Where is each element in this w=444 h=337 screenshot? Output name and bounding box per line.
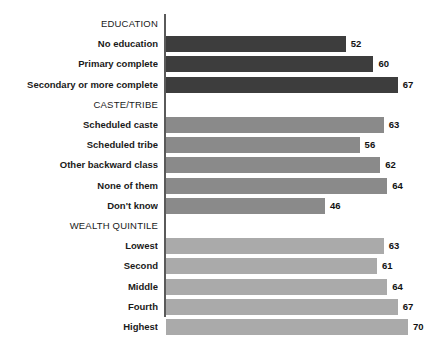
bar-row: Other backward class62 (0, 155, 444, 175)
bar (166, 77, 398, 93)
bar (166, 137, 360, 153)
bar-category-label: Highest (0, 317, 158, 337)
bar-category-label: Middle (0, 277, 158, 297)
bar-value-label: 64 (392, 279, 403, 295)
bar-value-label: 60 (378, 56, 389, 72)
bar-row: Don't know46 (0, 196, 444, 216)
bar-value-label: 67 (403, 299, 414, 315)
bar (166, 299, 398, 315)
bar-row: Primary complete60 (0, 54, 444, 74)
bar-category-label: No education (0, 34, 158, 54)
group-header-label: EDUCATION (0, 14, 158, 34)
bar-row: Scheduled tribe56 (0, 135, 444, 155)
bar-value-label: 61 (382, 258, 393, 274)
group-header-label: CASTE/TRIBE (0, 95, 158, 115)
bar (166, 117, 384, 133)
group-header-row: WEALTH QUINTILE (0, 216, 444, 236)
bar (166, 157, 380, 173)
bar-row: Second61 (0, 256, 444, 276)
bar-value-label: 52 (351, 36, 362, 52)
bar-row: Fourth67 (0, 297, 444, 317)
bar (166, 178, 387, 194)
bar-category-label: Lowest (0, 236, 158, 256)
bar-row: Lowest63 (0, 236, 444, 256)
bar-value-label: 63 (389, 117, 400, 133)
bar (166, 258, 377, 274)
bar-row: No education52 (0, 34, 444, 54)
bar-category-label: Other backward class (0, 155, 158, 175)
group-header-label: WEALTH QUINTILE (0, 216, 158, 236)
bar-value-label: 63 (389, 238, 400, 254)
bar (166, 238, 384, 254)
bar-value-label: 46 (330, 198, 341, 214)
bar-value-label: 70 (413, 319, 424, 335)
bar (166, 36, 346, 52)
bar-category-label: Scheduled caste (0, 115, 158, 135)
bar-category-label: None of them (0, 176, 158, 196)
bar-row: Secondary or more complete67 (0, 75, 444, 95)
bar-category-label: Primary complete (0, 54, 158, 74)
bar-value-label: 64 (392, 178, 403, 194)
bar-category-label: Fourth (0, 297, 158, 317)
bar-row: Highest70 (0, 317, 444, 337)
bar (166, 198, 325, 214)
group-header-row: CASTE/TRIBE (0, 95, 444, 115)
bar (166, 279, 387, 295)
bar-category-label: Don't know (0, 196, 158, 216)
group-header-row: EDUCATION (0, 14, 444, 34)
bar-row: Scheduled caste63 (0, 115, 444, 135)
bar (166, 319, 408, 335)
bar-category-label: Scheduled tribe (0, 135, 158, 155)
bar (166, 56, 373, 72)
bar-row: None of them64 (0, 176, 444, 196)
bar-category-label: Second (0, 256, 158, 276)
bar-value-label: 67 (403, 77, 414, 93)
bar-value-label: 56 (365, 137, 376, 153)
bar-value-label: 62 (385, 157, 396, 173)
bar-category-label: Secondary or more complete (0, 75, 158, 95)
bar-row: Middle64 (0, 277, 444, 297)
